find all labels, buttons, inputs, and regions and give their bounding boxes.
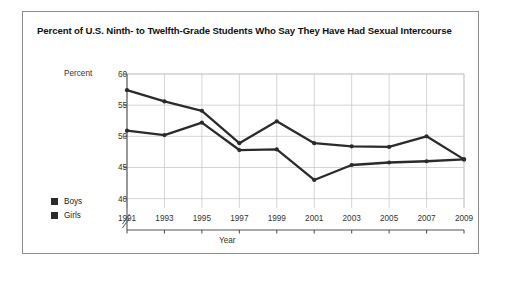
data-point-girls — [237, 148, 241, 152]
legend-item-girls: Girls — [51, 208, 82, 222]
chart-figure: Percent of U.S. Ninth- to Twelfth-Grade … — [22, 11, 479, 254]
legend-swatch-icon — [51, 198, 58, 205]
data-point-boys — [125, 88, 129, 92]
data-point-girls — [462, 157, 466, 161]
data-point-girls — [275, 147, 279, 151]
data-point-girls — [162, 133, 166, 137]
data-point-girls — [350, 163, 354, 167]
plot-area-wrapper: Percent Year 4045505560 1991199319951997… — [23, 12, 480, 255]
data-point-boys — [424, 134, 428, 138]
data-point-girls — [200, 121, 204, 125]
data-point-boys — [200, 109, 204, 113]
chart-legend: BoysGirls — [51, 194, 82, 222]
data-point-boys — [387, 145, 391, 149]
data-point-boys — [162, 99, 166, 103]
series-line-boys — [127, 90, 464, 159]
data-point-boys — [312, 141, 316, 145]
data-point-girls — [387, 160, 391, 164]
data-point-boys — [275, 119, 279, 123]
legend-label: Girls — [64, 211, 81, 220]
data-point-boys — [350, 144, 354, 148]
data-point-boys — [237, 141, 241, 145]
legend-item-boys: Boys — [51, 194, 82, 208]
data-point-girls — [312, 178, 316, 182]
legend-swatch-icon — [51, 212, 58, 219]
legend-label: Boys — [64, 197, 82, 206]
data-point-girls — [424, 159, 428, 163]
chart-plot — [23, 12, 480, 255]
data-point-girls — [125, 129, 129, 133]
